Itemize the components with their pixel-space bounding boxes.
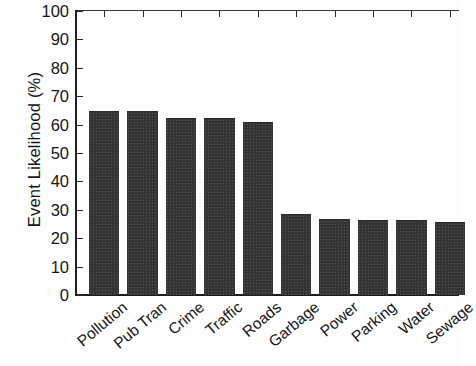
y-tick-label: 50 (51, 145, 69, 162)
x-tick-mark (181, 11, 182, 17)
x-tick-mark (296, 11, 297, 17)
y-tick-mark (77, 68, 83, 69)
y-tick-label: 0 (60, 287, 69, 304)
y-tick-label: 80 (51, 60, 69, 77)
y-tick-label: 10 (51, 258, 69, 275)
y-tick-label: 100 (41, 3, 69, 20)
x-axis-tick-labels: PollutionPub TranCrimeTrafficRoadsGarbag… (75, 299, 459, 366)
y-tick-mark (77, 39, 83, 40)
y-tick-label: 90 (51, 31, 69, 48)
y-tick-label: 40 (51, 173, 69, 190)
x-tick-mark (373, 11, 374, 17)
y-tick-label: 70 (51, 88, 69, 105)
y-axis-title: Event Likelihood (%) (25, 30, 44, 270)
y-tick-mark (77, 11, 83, 12)
bar (358, 220, 388, 295)
y-tick-mark (77, 238, 83, 239)
y-tick-mark (77, 153, 83, 154)
bar (319, 219, 349, 295)
x-tick-mark (104, 11, 105, 17)
y-tick-label: 60 (51, 116, 69, 133)
y-tick-mark (77, 181, 83, 182)
bar (281, 214, 311, 295)
bar (127, 111, 157, 295)
y-tick-label: 20 (51, 230, 69, 247)
x-tick-mark (335, 11, 336, 17)
axis-top-spine (75, 10, 459, 11)
bar (204, 118, 234, 295)
x-tick-mark (411, 11, 412, 17)
y-tick-mark (77, 125, 83, 126)
x-tick-mark (143, 11, 144, 17)
y-tick-mark (77, 295, 83, 296)
plot-area: 1009080706050403020100 (75, 11, 459, 295)
x-tick-mark (258, 11, 259, 17)
x-tick-mark (219, 11, 220, 17)
y-tick-label: 30 (51, 202, 69, 219)
bar (243, 122, 273, 295)
y-tick-mark (77, 210, 83, 211)
bar (89, 111, 119, 295)
y-tick-mark (77, 96, 83, 97)
x-tick-mark (450, 11, 451, 17)
bar (435, 222, 465, 295)
y-tick-mark (77, 267, 83, 268)
bar (166, 118, 196, 295)
bar (396, 220, 426, 295)
